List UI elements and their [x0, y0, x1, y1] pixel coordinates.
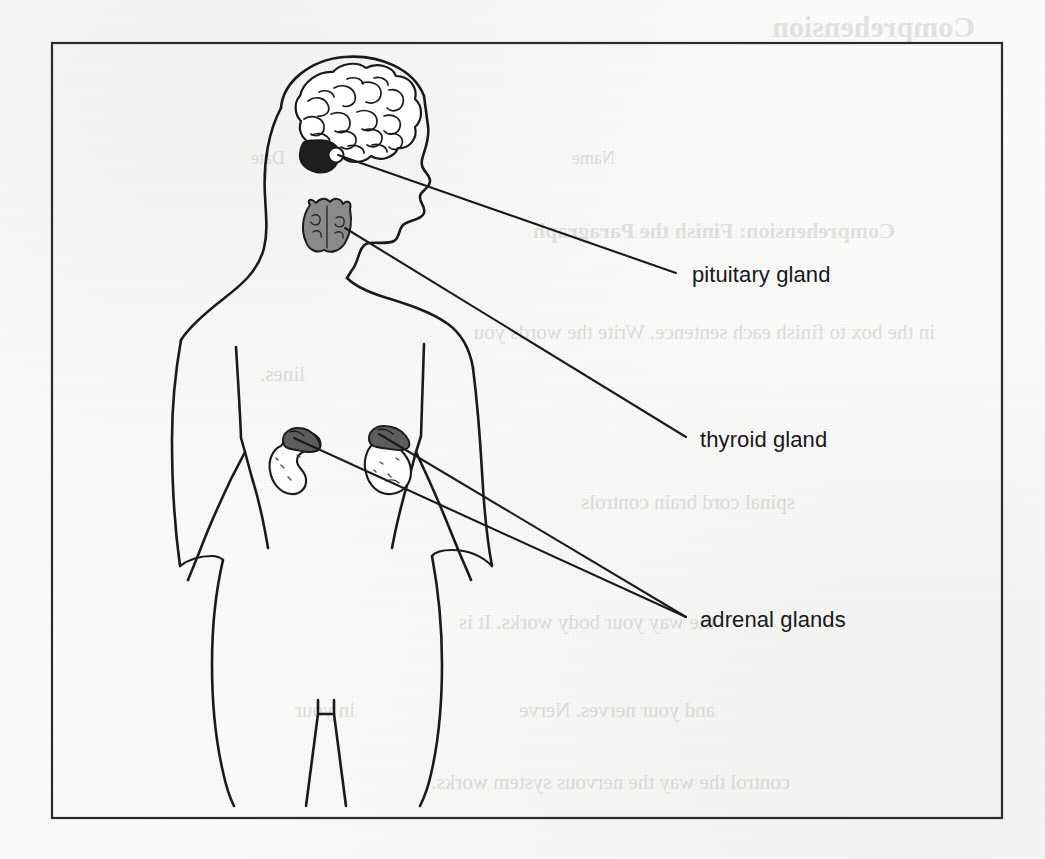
label-thyroid-gland: thyroid gland	[700, 427, 827, 453]
neck-back-outline	[181, 108, 281, 340]
leader-adrenal-right	[379, 434, 686, 617]
leader-adrenal-left	[294, 438, 686, 617]
left-arm-fork	[245, 452, 268, 548]
right-adrenal-gland	[369, 426, 409, 450]
torso-left-outline	[172, 340, 181, 566]
label-adrenal-glands: adrenal glands	[700, 607, 846, 633]
torso-right-outline	[473, 368, 492, 566]
left-inner-leg	[306, 714, 318, 806]
diagram-border	[52, 43, 1002, 818]
label-pituitary-gland: pituitary gland	[692, 262, 830, 288]
right-inner-leg	[334, 714, 346, 806]
neck-front-to-shoulder	[347, 278, 473, 368]
left-arm-inner	[188, 347, 245, 580]
right-hip-leg-outline	[420, 556, 442, 806]
crotch-notch	[318, 700, 334, 714]
left-hip-leg-outline	[212, 560, 234, 806]
endocrine-glands-diagram	[0, 0, 1045, 859]
pituitary-gland	[329, 148, 344, 163]
waist-left	[180, 556, 223, 566]
